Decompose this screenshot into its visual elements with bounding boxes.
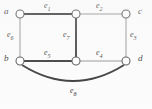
edge-label-e2-sub: 2 [100, 6, 103, 12]
vertex-label-b: b [4, 54, 9, 63]
edge-label-e2: e2 [96, 2, 103, 12]
vertex-d [122, 57, 130, 65]
edge-label-e8-sub: 8 [74, 91, 77, 97]
vertex-a [16, 10, 24, 18]
edge-label-e3-sub: 3 [134, 35, 137, 41]
edge-label-e5: e5 [44, 49, 51, 59]
vertex-bottom-middle [72, 57, 80, 65]
edge-label-e3: e3 [130, 31, 137, 41]
graph-figure: a c b d e1 e2 e3 e4 e5 e6 e7 e8 [0, 0, 152, 109]
edge-label-e5-sub: 5 [48, 53, 51, 59]
vertex-label-d: d [138, 54, 143, 63]
edge-label-e4-sub: 4 [100, 53, 103, 59]
edge-label-e1: e1 [44, 2, 51, 12]
edge-label-e4: e4 [96, 49, 103, 59]
edge-label-e7: e7 [63, 31, 70, 41]
vertex-top-middle [72, 10, 80, 18]
vertex-label-c: c [138, 7, 142, 16]
edge-label-e7-sub: 7 [67, 35, 70, 41]
edge-label-e6: e6 [7, 31, 14, 41]
edge-e8-arc [22, 65, 124, 81]
vertex-label-a: a [4, 7, 9, 16]
edge-label-e1-sub: 1 [48, 6, 51, 12]
vertex-b [16, 57, 24, 65]
edge-label-e6-sub: 6 [11, 35, 14, 41]
edge-label-e8: e8 [70, 87, 77, 97]
vertex-c [122, 10, 130, 18]
